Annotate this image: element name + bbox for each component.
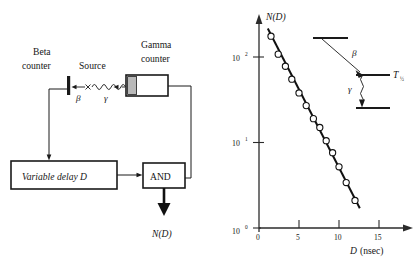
x-ticks: 0 5 10 15	[256, 220, 382, 242]
data-point	[289, 76, 295, 82]
source-label: Source	[79, 60, 106, 71]
gamma-ray-arrowhead	[114, 85, 119, 89]
x-axis-label-symbol: D	[349, 245, 357, 256]
data-point	[336, 164, 342, 170]
x-axis-label-unit: (nsec)	[360, 245, 383, 257]
data-point	[317, 124, 323, 130]
variable-delay-label: Variable delay D	[22, 171, 87, 182]
figure-svg: Beta counter Source Gamma counter β γ	[0, 0, 416, 260]
gamma-crystal-shaded	[128, 77, 137, 95]
gamma-counter-label-line1: Gamma	[141, 39, 172, 50]
inset-halflife-T: T	[393, 69, 399, 80]
svg-text:10: 10	[232, 227, 240, 236]
decay-plot: N(D) D (nsec) 100 101 102 0	[232, 11, 413, 257]
inset-beta-symbol: β	[351, 48, 357, 58]
data-point	[330, 150, 336, 156]
figure-root: Beta counter Source Gamma counter β γ	[0, 0, 416, 260]
x-axis-label: D (nsec)	[349, 245, 383, 257]
output-arrow	[158, 188, 171, 216]
gamma-counter-box	[126, 75, 168, 96]
beta-ray-arrow	[72, 85, 86, 89]
y-axis-label: N(D)	[265, 11, 286, 23]
x-ticklabel-0: 0	[256, 233, 260, 242]
data-point	[310, 116, 316, 122]
inset-halflife-label: T ½	[393, 69, 404, 82]
source-point-marker	[86, 85, 91, 90]
svg-text:10: 10	[232, 54, 240, 63]
wire-delay-to-and	[117, 173, 143, 178]
wire-beta-to-delay	[47, 89, 67, 161]
y-ticklabel-2: 102	[232, 51, 248, 63]
data-point	[352, 197, 358, 203]
x-axis	[259, 225, 413, 232]
svg-text:2: 2	[245, 51, 248, 57]
and-gate-box[interactable]: AND	[143, 163, 185, 188]
data-point	[275, 51, 281, 57]
data-point	[343, 179, 349, 185]
data-point	[282, 63, 288, 69]
beta-symbol-diagram: β	[75, 93, 81, 103]
svg-text:1: 1	[245, 136, 248, 142]
inset-gamma-symbol: γ	[348, 84, 352, 94]
gamma-counter-label-line2: counter	[141, 53, 171, 64]
y-ticklabel-0: 100	[232, 224, 248, 236]
data-point	[268, 33, 274, 39]
svg-text:10: 10	[232, 139, 240, 148]
beta-detector-bar	[67, 76, 70, 95]
and-gate-label: AND	[150, 171, 171, 182]
x-ticklabel-15: 15	[374, 233, 382, 242]
data-point	[303, 103, 309, 109]
y-ticklabel-1: 101	[232, 136, 248, 148]
inset-gamma-arrow	[359, 76, 365, 108]
inset-beta-arrow	[322, 39, 364, 78]
x-ticklabel-5: 5	[296, 233, 300, 242]
gamma-ray-wave	[92, 85, 126, 90]
block-diagram: Beta counter Source Gamma counter β γ	[11, 39, 191, 240]
data-point	[296, 90, 302, 96]
beta-counter-label-line1: Beta	[33, 46, 51, 57]
gamma-symbol-diagram: γ	[104, 93, 108, 103]
inset-decay-scheme: β γ T ½	[313, 38, 404, 108]
x-ticklabel-10: 10	[334, 233, 342, 242]
data-point	[323, 138, 329, 144]
inset-halflife-sub: ½	[400, 76, 404, 82]
output-label: N(D)	[151, 228, 172, 240]
variable-delay-box[interactable]: Variable delay D	[11, 161, 117, 189]
svg-text:0: 0	[245, 224, 248, 230]
beta-counter-label-line2: counter	[22, 60, 52, 71]
y-axis	[256, 14, 263, 232]
